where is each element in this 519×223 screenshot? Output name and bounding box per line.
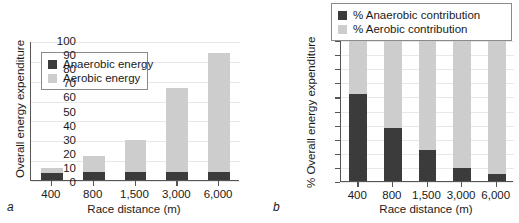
panel-b-plot-area bbox=[340, 41, 513, 182]
bar-segment-aerobic bbox=[384, 40, 402, 128]
bar-6000 bbox=[208, 41, 230, 180]
x-tick-label-800: 800 bbox=[72, 188, 114, 200]
y-tick-label-40: 40 bbox=[63, 120, 76, 132]
x-tick-label-400: 400 bbox=[30, 188, 72, 200]
legend-swatch-anaerobic-icon bbox=[48, 60, 57, 69]
x-tick bbox=[427, 182, 428, 187]
bar-segment-aerobic bbox=[83, 156, 105, 172]
y-tick-label-100: 100 bbox=[57, 35, 76, 47]
y-tick-label-30: 30 bbox=[63, 134, 76, 146]
y-tick-label-0: 0 bbox=[70, 176, 76, 188]
y-tick-label-60: 60 bbox=[63, 91, 76, 103]
x-tick-label-3000: 3,000 bbox=[155, 188, 197, 200]
bar-segment-anaerobic bbox=[384, 128, 402, 181]
panel-a-y-axis-title: Overall energy expenditure bbox=[14, 40, 26, 178]
legend-label-anaerobic-energy: Anaerobic energy bbox=[63, 58, 153, 71]
bar-3000 bbox=[453, 40, 471, 181]
bar-segment-aerobic bbox=[419, 40, 437, 150]
bar-segment-aerobic bbox=[488, 40, 506, 174]
x-tick-label-400: 400 bbox=[340, 189, 375, 201]
legend-swatch-anaerobic-icon bbox=[338, 11, 347, 20]
bar-3000 bbox=[166, 41, 188, 180]
legend-swatch-aerobic-icon bbox=[48, 74, 57, 83]
x-tick-label-800: 800 bbox=[375, 189, 410, 201]
x-tick-label-3000: 3,000 bbox=[444, 189, 479, 201]
x-tick bbox=[93, 181, 94, 186]
y-tick-label-70: 70 bbox=[63, 77, 76, 89]
x-tick-label-6000: 6,000 bbox=[197, 188, 239, 200]
bar-segment-aerobic bbox=[166, 88, 188, 171]
bar-segment-anaerobic bbox=[83, 172, 105, 180]
bar-segment-aerobic bbox=[453, 40, 471, 168]
panel-b-bars bbox=[341, 41, 513, 181]
bar-segment-aerobic bbox=[208, 53, 230, 171]
x-tick-label-1500: 1,500 bbox=[114, 188, 156, 200]
y-tick-label-90: 90 bbox=[63, 49, 76, 61]
bar-400 bbox=[349, 40, 367, 181]
bar-segment-anaerobic bbox=[41, 173, 63, 180]
x-tick bbox=[357, 182, 358, 187]
panel-b-y-axis-title: % Overall energy expenditure bbox=[305, 37, 317, 189]
x-tick bbox=[461, 182, 462, 187]
bar-segment-aerobic bbox=[349, 40, 367, 94]
legend-item-anaerobic-energy: Anaerobic energy bbox=[48, 57, 140, 71]
bar-segment-anaerobic bbox=[488, 174, 506, 181]
legend-item-anaerobic-contribution: % Anaerobic contribution bbox=[338, 8, 504, 22]
bar-segment-anaerobic bbox=[419, 150, 437, 181]
y-tick-label-80: 80 bbox=[63, 63, 76, 75]
panel-a: Overall energy expenditure 4008001,5003,… bbox=[0, 0, 262, 223]
figure-energy-expenditure: Overall energy expenditure 4008001,5003,… bbox=[0, 0, 519, 223]
bar-segment-anaerobic bbox=[349, 94, 367, 181]
bar-800 bbox=[384, 40, 402, 181]
bar-segment-anaerobic bbox=[166, 172, 188, 180]
legend-item-aerobic-energy: Aerobic energy bbox=[48, 71, 140, 85]
bar-segment-anaerobic bbox=[453, 168, 471, 181]
x-tick bbox=[51, 181, 52, 186]
panel-b-letter: b bbox=[273, 200, 280, 214]
panel-a-letter: a bbox=[7, 200, 14, 214]
x-tick bbox=[218, 181, 219, 186]
panel-a-legend: Anaerobic energy Aerobic energy bbox=[41, 52, 148, 90]
y-tick-label-10: 10 bbox=[63, 162, 76, 174]
y-tick-label-50: 50 bbox=[63, 106, 76, 118]
panel-a-x-ticks: 4008001,5003,0006,000 bbox=[30, 181, 238, 205]
x-tick bbox=[496, 182, 497, 187]
legend-swatch-aerobic-icon bbox=[338, 25, 347, 34]
bar-segment-anaerobic bbox=[208, 172, 230, 180]
panel-b-legend: % Anaerobic contribution % Aerobic contr… bbox=[331, 3, 512, 41]
panel-b-x-axis-title: Race distance (m) bbox=[340, 203, 512, 215]
bar-segment-aerobic bbox=[41, 168, 63, 173]
x-tick-label-1500: 1,500 bbox=[409, 189, 444, 201]
legend-label-anaerobic-contribution: % Anaerobic contribution bbox=[353, 9, 480, 22]
x-tick bbox=[135, 181, 136, 186]
panel-b: % Overall energy expenditure 01020304050… bbox=[262, 0, 519, 223]
bar-segment-anaerobic bbox=[125, 172, 147, 180]
x-tick bbox=[176, 181, 177, 186]
panel-a-x-axis-title: Race distance (m) bbox=[30, 203, 238, 215]
legend-label-aerobic-contribution: % Aerobic contribution bbox=[353, 23, 467, 36]
x-tick bbox=[392, 182, 393, 187]
bar-1500 bbox=[419, 40, 437, 181]
y-tick-label-20: 20 bbox=[63, 148, 76, 160]
legend-item-aerobic-contribution: % Aerobic contribution bbox=[338, 22, 504, 36]
bar-segment-aerobic bbox=[125, 140, 147, 171]
bar-6000 bbox=[488, 40, 506, 181]
x-tick-label-6000: 6,000 bbox=[478, 189, 513, 201]
